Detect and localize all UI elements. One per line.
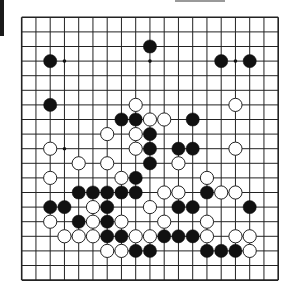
white-stone[interactable] [200, 171, 213, 184]
black-stone[interactable] [200, 244, 213, 257]
black-stone[interactable] [143, 40, 156, 53]
white-stone[interactable] [200, 215, 213, 228]
white-stone[interactable] [72, 157, 85, 170]
go-board-canvas[interactable] [0, 0, 294, 298]
black-stone[interactable] [186, 142, 199, 155]
white-stone[interactable] [129, 128, 142, 141]
black-stone[interactable] [101, 186, 114, 199]
black-stone[interactable] [229, 244, 242, 257]
white-stone[interactable] [86, 215, 99, 228]
black-stone[interactable] [200, 186, 213, 199]
white-stone[interactable] [158, 215, 171, 228]
white-stone[interactable] [129, 142, 142, 155]
black-stone[interactable] [115, 113, 128, 126]
black-stone[interactable] [143, 244, 156, 257]
white-stone[interactable] [115, 244, 128, 257]
black-stone[interactable] [44, 98, 57, 111]
white-stone[interactable] [215, 186, 228, 199]
white-stone[interactable] [129, 98, 142, 111]
black-stone[interactable] [129, 171, 142, 184]
white-stone[interactable] [229, 186, 242, 199]
point-marker-dot [63, 59, 67, 63]
black-stone[interactable] [172, 230, 185, 243]
white-stone[interactable] [200, 230, 213, 243]
white-stone[interactable] [158, 186, 171, 199]
white-stone[interactable] [143, 113, 156, 126]
black-stone[interactable] [215, 244, 228, 257]
white-stone[interactable] [44, 171, 57, 184]
black-stone[interactable] [101, 215, 114, 228]
black-stone[interactable] [143, 142, 156, 155]
black-stone[interactable] [129, 244, 142, 257]
white-stone[interactable] [101, 244, 114, 257]
white-stone[interactable] [229, 98, 242, 111]
black-stone[interactable] [186, 201, 199, 214]
black-stone[interactable] [101, 230, 114, 243]
black-stone[interactable] [243, 201, 256, 214]
white-stone[interactable] [172, 157, 185, 170]
black-stone[interactable] [129, 186, 142, 199]
black-stone[interactable] [86, 186, 99, 199]
black-stone[interactable] [186, 113, 199, 126]
white-stone[interactable] [158, 113, 171, 126]
point-marker-dot [234, 59, 238, 63]
black-stone[interactable] [44, 201, 57, 214]
point-marker-dot [63, 147, 67, 151]
white-stone[interactable] [115, 215, 128, 228]
black-stone[interactable] [115, 230, 128, 243]
white-stone[interactable] [229, 230, 242, 243]
white-stone[interactable] [229, 142, 242, 155]
white-stone[interactable] [172, 186, 185, 199]
white-stone[interactable] [115, 171, 128, 184]
black-stone[interactable] [129, 113, 142, 126]
white-stone[interactable] [101, 128, 114, 141]
white-stone[interactable] [44, 215, 57, 228]
black-stone[interactable] [158, 230, 171, 243]
black-stone[interactable] [143, 128, 156, 141]
black-stone[interactable] [101, 201, 114, 214]
white-stone[interactable] [58, 230, 71, 243]
white-stone[interactable] [243, 244, 256, 257]
white-stone[interactable] [143, 230, 156, 243]
white-stone[interactable] [44, 142, 57, 155]
white-stone[interactable] [243, 230, 256, 243]
white-stone[interactable] [86, 230, 99, 243]
white-stone[interactable] [129, 230, 142, 243]
white-stone[interactable] [143, 201, 156, 214]
white-stone[interactable] [86, 201, 99, 214]
black-stone[interactable] [72, 186, 85, 199]
black-stone[interactable] [58, 201, 71, 214]
black-stone[interactable] [44, 55, 57, 68]
go-board[interactable] [0, 0, 294, 298]
black-stone[interactable] [115, 186, 128, 199]
white-stone[interactable] [101, 157, 114, 170]
point-marker-dot [148, 59, 152, 63]
black-stone[interactable] [72, 215, 85, 228]
black-stone[interactable] [215, 55, 228, 68]
black-stone[interactable] [186, 230, 199, 243]
black-stone[interactable] [172, 201, 185, 214]
black-stone[interactable] [143, 157, 156, 170]
black-stone[interactable] [172, 142, 185, 155]
white-stone[interactable] [72, 230, 85, 243]
black-stone[interactable] [243, 55, 256, 68]
